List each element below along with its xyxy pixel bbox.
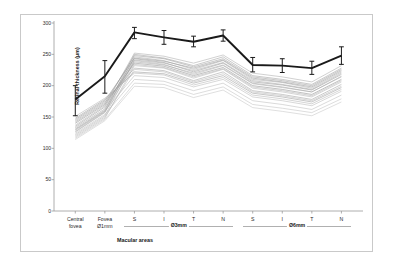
plot-area: [21, 15, 372, 251]
figure: Retinal thickness (µm) Macular areas 050…: [0, 0, 393, 273]
chart-frame: Retinal thickness (µm) Macular areas 050…: [20, 14, 373, 252]
